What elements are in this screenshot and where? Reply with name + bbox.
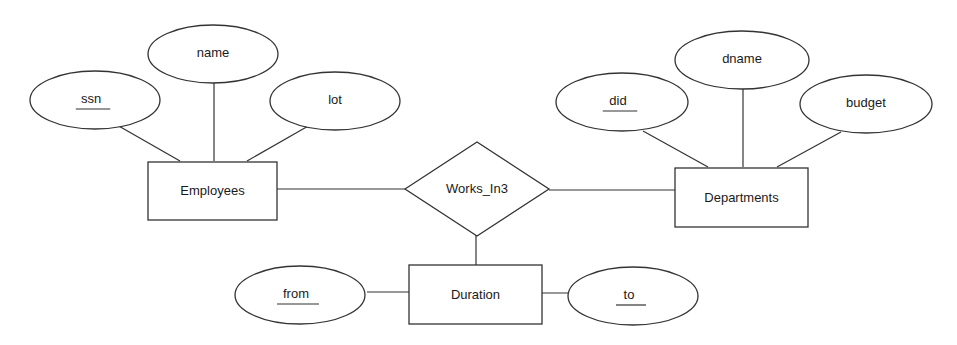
edge-ssn-employees (117, 125, 180, 161)
attribute-label: ssn (81, 91, 101, 106)
entity-employees[interactable]: Employees (148, 162, 277, 220)
attribute-did[interactable]: did (556, 73, 688, 131)
attribute-from[interactable]: from (235, 266, 365, 324)
entity-label: Duration (451, 287, 500, 302)
attribute-label: to (624, 287, 635, 302)
attribute-label: dname (722, 51, 762, 66)
relationship-label: Works_In3 (446, 181, 508, 196)
attribute-to[interactable]: to (568, 267, 698, 325)
edge-did-departments (643, 131, 708, 167)
attribute-lot[interactable]: lot (270, 72, 400, 130)
relationships: Works_In3 (405, 142, 549, 236)
edge-budget-departments (777, 132, 841, 167)
attribute-label: name (197, 45, 230, 60)
attribute-label: from (283, 286, 309, 301)
edge-lot-employees (247, 125, 310, 161)
attribute-label: did (609, 93, 626, 108)
entity-duration[interactable]: Duration (409, 265, 542, 324)
entity-label: Employees (180, 183, 245, 198)
attribute-label: lot (328, 92, 342, 107)
er-diagram: EmployeesDepartmentsDuration Works_In3 s… (0, 0, 957, 345)
entity-label: Departments (704, 190, 779, 205)
relationship-works_in3[interactable]: Works_In3 (405, 142, 549, 236)
attribute-ssn[interactable]: ssn (30, 71, 160, 129)
attribute-dname[interactable]: dname (675, 31, 809, 89)
attribute-budget[interactable]: budget (800, 75, 932, 133)
attribute-label: budget (846, 95, 886, 110)
entity-departments[interactable]: Departments (675, 168, 808, 227)
attribute-name[interactable]: name (148, 25, 278, 83)
